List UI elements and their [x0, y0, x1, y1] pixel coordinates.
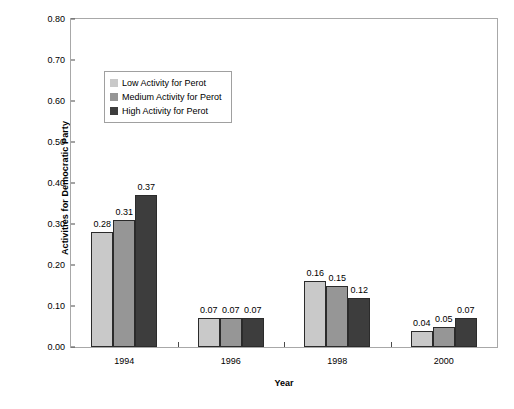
y-tick-mark: [71, 101, 75, 102]
bar-value-label: 0.28: [93, 219, 111, 229]
x-tick-mark: [284, 342, 285, 347]
y-tick-label: 0.20: [5, 260, 71, 270]
legend-label-medium: Medium Activity for Perot: [122, 92, 222, 102]
bar: [433, 327, 455, 348]
y-tick-label: 0.80: [5, 14, 71, 24]
y-tick-label: 0.10: [5, 301, 71, 311]
x-tick-mark: [178, 342, 179, 347]
bar: [242, 318, 264, 347]
bar: [220, 318, 242, 347]
bar-value-label: 0.05: [435, 314, 453, 324]
bar-value-label: 0.07: [457, 305, 475, 315]
bar-value-label: 0.07: [222, 305, 240, 315]
bar-value-label: 0.04: [413, 318, 431, 328]
legend-item-high: High Activity for Perot: [110, 104, 222, 118]
y-tick-label: 0.70: [5, 55, 71, 65]
x-tick-label: 1998: [327, 356, 347, 366]
y-tick-mark: [71, 142, 75, 143]
bar-value-label: 0.37: [137, 182, 155, 192]
bar: [348, 298, 370, 347]
y-tick-mark: [71, 306, 75, 307]
y-tick-mark: [71, 19, 75, 20]
legend-swatch-low-icon: [110, 79, 118, 87]
bar: [135, 195, 157, 347]
bar-value-label: 0.12: [350, 285, 368, 295]
bar: [91, 232, 113, 347]
bar: [326, 286, 348, 348]
bar: [113, 220, 135, 347]
bar: [304, 281, 326, 347]
y-tick-mark: [71, 224, 75, 225]
legend-item-low: Low Activity for Perot: [110, 76, 222, 90]
y-tick-mark: [71, 60, 75, 61]
legend-swatch-medium-icon: [110, 93, 118, 101]
x-tick-label: 2000: [434, 356, 454, 366]
y-tick-mark: [71, 183, 75, 184]
chart-legend: Low Activity for Perot Medium Activity f…: [104, 71, 232, 123]
x-tick-mark: [391, 342, 392, 347]
bar-value-label: 0.07: [200, 305, 218, 315]
bar-value-label: 0.16: [306, 268, 324, 278]
bar: [411, 331, 433, 347]
y-tick-mark: [71, 347, 75, 348]
bar-value-label: 0.31: [115, 207, 133, 217]
x-tick-label: 1996: [221, 356, 241, 366]
bar-value-label: 0.07: [244, 305, 262, 315]
legend-label-high: High Activity for Perot: [122, 106, 208, 116]
bar-value-label: 0.15: [328, 273, 346, 283]
legend-label-low: Low Activity for Perot: [122, 78, 206, 88]
bar: [198, 318, 220, 347]
x-axis-title: Year: [70, 378, 498, 388]
y-tick-label: 0.30: [5, 219, 71, 229]
y-tick-label: 0.50: [5, 137, 71, 147]
y-tick-label: 0.00: [5, 342, 71, 352]
plot-area: 0.000.100.200.300.400.500.600.700.801994…: [70, 18, 498, 348]
y-axis-title: Activities for Democratic Party: [60, 28, 70, 348]
x-tick-label: 1994: [114, 356, 134, 366]
bar: [455, 318, 477, 347]
y-tick-mark: [71, 265, 75, 266]
legend-item-medium: Medium Activity for Perot: [110, 90, 222, 104]
legend-swatch-high-icon: [110, 107, 118, 115]
y-tick-label: 0.40: [5, 178, 71, 188]
bar-chart: Activities for Democratic Party 0.000.10…: [0, 0, 514, 409]
y-tick-label: 0.60: [5, 96, 71, 106]
